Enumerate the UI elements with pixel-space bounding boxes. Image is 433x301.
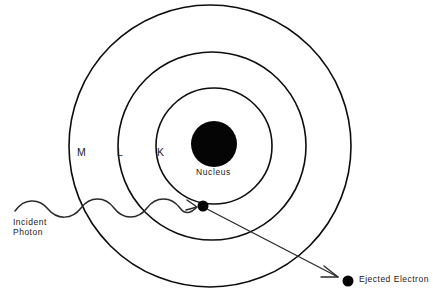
nucleus-circle	[191, 121, 237, 167]
ejected-electron-path	[207, 209, 338, 277]
diagram-canvas	[0, 0, 433, 301]
incident-photon-label: Incident Photon	[13, 218, 47, 238]
incident-photon-label-line2: Photon	[13, 228, 47, 238]
k-shell-label: K	[157, 146, 164, 158]
ejected-electron-dot	[343, 276, 354, 287]
incident-photon-wave	[15, 199, 196, 217]
l-shell-label: L	[117, 146, 123, 158]
ejected-electron-label: Ejected Electron	[359, 275, 429, 285]
nucleus-label: Nucleus	[196, 168, 231, 178]
m-shell-label: M	[77, 146, 86, 158]
ejection-arrowhead	[321, 266, 338, 277]
photoelectric-effect-diagram: M L K Nucleus Incident Photon Ejected El…	[0, 0, 433, 301]
bound-electron-dot	[198, 201, 209, 212]
